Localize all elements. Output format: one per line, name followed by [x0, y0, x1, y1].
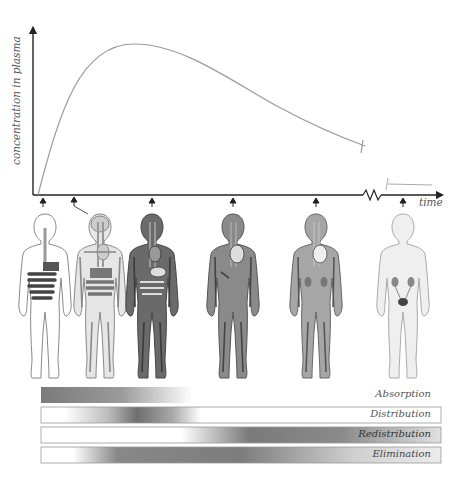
- body-figure-absorption: [74, 214, 126, 378]
- body-figure-oral: [19, 214, 71, 378]
- body-figure-elimination: [377, 214, 429, 378]
- axis-break: [363, 190, 381, 200]
- curve-break-tick: [361, 140, 363, 153]
- phase-label: Absorption: [375, 388, 431, 399]
- body-figure-distribution: [126, 214, 178, 378]
- residual-break-tick: [386, 178, 388, 190]
- phase-elimination: Elimination: [41, 447, 441, 463]
- pharmacokinetics-diagram: concentration in plasma time: [0, 0, 458, 478]
- stage-arrows: [40, 197, 406, 214]
- phase-distribution: Distribution: [41, 407, 441, 423]
- body-figure-metabolism: [290, 214, 342, 378]
- phase-label: Redistribution: [358, 428, 431, 439]
- phase-label: Elimination: [373, 448, 431, 459]
- phase-redistribution: Redistribution: [41, 427, 441, 443]
- phase-absorption: Absorption: [41, 387, 441, 403]
- phase-label: Distribution: [370, 408, 431, 419]
- concentration-curve: [38, 44, 365, 195]
- residual-level-line: [388, 184, 432, 185]
- body-figure-redistribution: [207, 214, 259, 378]
